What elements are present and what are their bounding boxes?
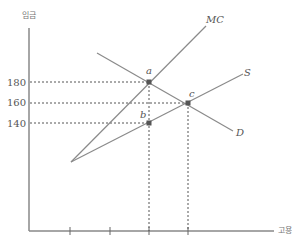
guide-lines xyxy=(30,82,188,231)
mc-curve xyxy=(71,26,206,162)
point-c-label: c xyxy=(189,89,195,99)
demand-curve xyxy=(97,53,233,131)
point-a xyxy=(147,80,152,85)
y-axis-label: 임금 xyxy=(22,11,36,21)
point-c xyxy=(186,101,191,106)
y-tick-180: 180 xyxy=(7,78,26,88)
x-axis-label: 고용 xyxy=(278,226,292,236)
y-tick-140: 140 xyxy=(7,119,26,129)
y-tick-160: 160 xyxy=(7,98,26,108)
point-b-label: b xyxy=(140,110,146,120)
s-label: S xyxy=(244,68,251,78)
point-b xyxy=(147,121,152,126)
d-label: D xyxy=(236,128,244,138)
mc-label: MC xyxy=(206,15,224,25)
point-a-label: a xyxy=(146,66,152,76)
